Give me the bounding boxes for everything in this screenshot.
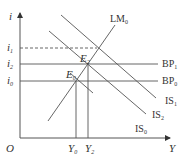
origin-label: O: [6, 142, 14, 154]
y2-label: Y2: [85, 142, 94, 155]
y0-label: Y0: [68, 142, 77, 155]
is1-label: IS1: [165, 95, 177, 107]
is1-curve: [61, 15, 156, 98]
is-lm-bp-diagram: i Y O i1 i2 i0 Y0 Y2 E2 E0 LM0 BP1 BP0 I…: [0, 0, 184, 156]
y-axis-label: i: [9, 10, 12, 22]
bp1-label: BP1: [162, 58, 177, 70]
e2-label: E2: [79, 52, 90, 65]
lm0-label: LM0: [110, 13, 128, 25]
is0-label: IS0: [135, 123, 147, 135]
is2-curve: [49, 31, 146, 114]
i2-label: i2: [7, 57, 13, 70]
e0-label: E0: [65, 68, 76, 81]
lm0-curve: [48, 25, 115, 121]
i0-label: i0: [7, 74, 13, 87]
bp0-label: BP0: [162, 75, 177, 87]
is2-label: IS2: [152, 109, 164, 121]
x-axis-label: Y: [169, 142, 177, 154]
i1-label: i1: [7, 41, 13, 54]
